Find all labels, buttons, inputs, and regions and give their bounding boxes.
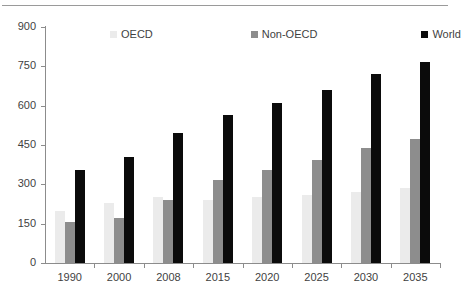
bar-non-oecd-2000 [114,218,124,263]
y-axis-tick-label: 750 [2,60,36,71]
top-divider-rule [2,5,448,6]
x-axis-tick [391,264,392,268]
legend-item-non-oecd[interactable]: Non-OECD [251,28,318,40]
bar-non-oecd-2015 [213,180,223,263]
y-axis-tick-label: 0 [2,257,36,268]
bar-world-1990 [75,170,85,263]
bar-oecd-2035 [400,188,410,263]
y-axis-tick-label: 300 [2,178,36,189]
legend-swatch-icon [421,31,428,38]
x-axis-tick-label: 1990 [45,271,94,283]
bar-non-oecd-1990 [65,222,75,263]
bar-group [104,27,134,263]
bar-group [351,27,381,263]
y-axis-tick-label: 150 [2,218,36,229]
bar-non-oecd-2035 [410,139,420,263]
legend-swatch-icon [251,31,258,38]
legend-label: World [432,28,461,40]
x-axis-tick [341,264,342,268]
y-axis-tick [41,263,46,264]
bar-group [302,27,332,263]
bar-non-oecd-2030 [361,148,371,263]
bar-group [55,27,85,263]
bar-world-2020 [272,103,282,263]
plot-area [45,27,440,263]
legend-item-oecd[interactable]: OECD [110,28,153,40]
x-axis-tick [292,264,293,268]
bar-non-oecd-2020 [262,170,272,263]
x-axis-tick [144,264,145,268]
bar-oecd-2000 [104,203,114,263]
bar-oecd-2015 [203,200,213,263]
bar-group [400,27,430,263]
x-axis-tick-label: 2030 [341,271,390,283]
x-axis-tick-label: 2015 [193,271,242,283]
legend-label: OECD [121,28,153,40]
bar-oecd-2030 [351,192,361,263]
bar-group [203,27,233,263]
bar-world-2025 [322,90,332,263]
x-axis-tick-label: 2025 [292,271,341,283]
bar-oecd-2008 [153,197,163,263]
x-axis-tick-label: 2020 [243,271,292,283]
bar-world-2030 [371,74,381,263]
bar-world-2000 [124,157,134,263]
bar-world-2015 [223,115,233,263]
y-axis-tick-label: 600 [2,100,36,111]
bar-group [252,27,282,263]
legend-swatch-icon [110,31,117,38]
bar-world-2035 [420,62,430,263]
bar-oecd-2020 [252,197,262,263]
bar-world-2008 [173,133,183,263]
x-axis-tick-label: 2008 [144,271,193,283]
bar-non-oecd-2008 [163,200,173,263]
bar-oecd-2025 [302,195,312,263]
x-axis-tick-label: 2035 [391,271,440,283]
chart-legend: OECDNon-OECDWorld [110,27,461,41]
bar-group [153,27,183,263]
x-axis-tick [440,264,441,268]
y-axis-tick-label: 900 [2,21,36,32]
y-axis-tick-label: 450 [2,139,36,150]
x-axis-tick [193,264,194,268]
x-axis-tick [243,264,244,268]
x-axis-tick [94,264,95,268]
legend-label: Non-OECD [262,28,318,40]
legend-item-world[interactable]: World [421,28,461,40]
bar-non-oecd-2025 [312,160,322,263]
bar-oecd-1990 [55,211,65,263]
x-axis-tick-label: 2000 [94,271,143,283]
